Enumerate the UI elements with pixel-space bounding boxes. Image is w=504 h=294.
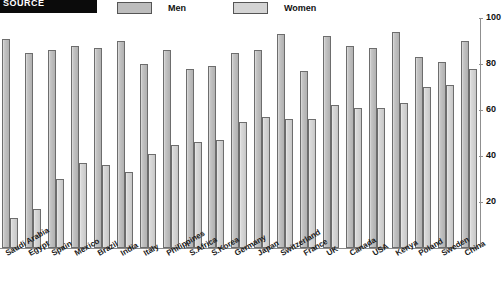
bar-men [461,41,469,248]
bar-women [216,140,224,248]
bar-group [231,18,247,248]
y-tick: 80 [479,64,504,65]
bar-group [461,18,477,248]
bar-men [71,46,79,248]
bar-women [285,119,293,248]
bar-group [369,18,385,248]
bar-group [277,18,293,248]
bar-women [56,179,64,248]
bar-women [354,108,362,248]
bar-groups [0,18,479,248]
bar-group [392,18,408,248]
legend-label-women: Women [284,3,316,13]
y-tick: 40 [479,156,504,157]
y-tick-label: 100 [486,12,501,22]
bar-men [208,66,216,248]
bar-group [25,18,41,248]
legend-swatch-women [233,2,268,14]
bar-men [25,53,33,249]
bar-men [323,36,331,248]
bar-men [277,34,285,248]
bar-women [377,108,385,248]
y-axis-line [480,18,481,248]
y-tick-label: 20 [486,196,496,206]
bar-men [369,48,377,248]
bar-group [48,18,64,248]
bar-men [48,50,56,248]
bar-group [163,18,179,248]
bar-men [254,50,262,248]
bar-men [346,46,354,248]
bar-group [323,18,339,248]
y-tick-mark [479,110,483,111]
legend-label-men: Men [168,3,186,13]
y-tick-label: 80 [486,58,496,68]
y-tick-mark [479,64,483,65]
bar-women [125,172,133,248]
bar-men [140,64,148,248]
bar-men [163,50,171,248]
bar-men [2,39,10,248]
bar-women [262,117,270,248]
bar-group [254,18,270,248]
y-tick: 20 [479,202,504,203]
bar-group [300,18,316,248]
bar-women [79,163,87,248]
bar-group [415,18,431,248]
legend-swatch-men [117,2,152,14]
bar-women [400,103,408,248]
legend-item-men: Men [117,1,186,14]
bar-group [438,18,454,248]
bar-group [346,18,362,248]
chart-header: SOURCE Men Women [0,0,504,16]
bar-group [186,18,202,248]
title-block: SOURCE [0,0,97,13]
bar-group [140,18,156,248]
bar-men [438,62,446,248]
bar-men [117,41,125,248]
plot-area [0,18,479,248]
bar-men [300,71,308,248]
legend-item-women: Women [233,1,316,14]
bar-men [415,57,423,248]
y-tick-mark [479,202,483,203]
bar-group [71,18,87,248]
bar-women [171,145,179,249]
y-tick-label: 40 [486,150,496,160]
bar-men [231,53,239,249]
bar-women [446,85,454,248]
bar-men [186,69,194,248]
bar-women [239,122,247,249]
bar-men [392,32,400,248]
bar-women [423,87,431,248]
bar-women [102,165,110,248]
bar-women [148,154,156,248]
x-axis-labels: Saudi ArabiaEgyptSpainMexicoBrazilIndiaI… [0,250,479,294]
bar-women [331,105,339,248]
bar-group [208,18,224,248]
y-tick: 60 [479,110,504,111]
y-tick-mark [479,18,483,19]
y-tick-mark [479,156,483,157]
bar-women [469,69,477,248]
y-tick: 100 [479,18,504,19]
bar-group [2,18,18,248]
bar-group [117,18,133,248]
y-tick-label: 60 [486,104,496,114]
y-axis: 20406080100 [479,18,504,250]
bar-group [94,18,110,248]
bar-men [94,48,102,248]
